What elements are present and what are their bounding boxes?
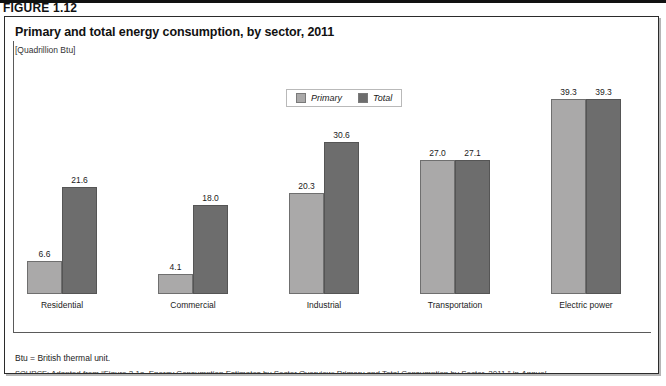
figure-panel: Primary and total energy consumption, by… xyxy=(4,16,659,374)
bar-wrap-residential-total: 21.6 xyxy=(62,187,97,294)
x-tick-label-transportation: Transportation xyxy=(428,300,483,310)
bar-wrap-transportation-primary: 27.0 xyxy=(420,160,455,294)
figure-number: FIGURE 1.12 xyxy=(3,1,77,15)
plot-area: 6.6 21.6 Residential 4.1 18.0 xyxy=(5,17,659,349)
bar-residential-primary[interactable] xyxy=(27,261,62,294)
bar-group-electric-power: 39.3 39.3 Electric power xyxy=(551,99,621,294)
bar-transportation-primary[interactable] xyxy=(420,160,455,294)
bar-commercial-total[interactable] xyxy=(193,205,228,294)
bar-group-industrial: 20.3 30.6 Industrial xyxy=(289,142,359,294)
abbreviation-note: Btu = British thermal unit. xyxy=(15,353,110,363)
bar-industrial-total[interactable] xyxy=(324,142,359,294)
bar-electric-power-primary[interactable] xyxy=(551,99,586,294)
bar-wrap-industrial-total: 30.6 xyxy=(324,142,359,294)
bar-wrap-commercial-total: 18.0 xyxy=(193,205,228,294)
bar-value-electric-power-primary: 39.3 xyxy=(560,87,577,97)
x-tick-label-residential: Residential xyxy=(41,300,83,310)
bar-transportation-total[interactable] xyxy=(455,160,490,294)
bar-value-residential-total: 21.6 xyxy=(71,175,88,185)
source-note: SOURCE: Adapted from “Figure 2.1a. Energ… xyxy=(15,369,655,374)
bar-value-commercial-total: 18.0 xyxy=(202,193,219,203)
bar-group-transportation: 27.0 27.1 Transportation xyxy=(420,160,490,294)
bar-value-transportation-total: 27.1 xyxy=(464,148,481,158)
bar-commercial-primary[interactable] xyxy=(158,274,193,294)
bar-group-commercial: 4.1 18.0 Commercial xyxy=(158,205,228,294)
bar-wrap-industrial-primary: 20.3 xyxy=(289,193,324,294)
x-tick-label-commercial: Commercial xyxy=(170,300,215,310)
bar-wrap-commercial-primary: 4.1 xyxy=(158,274,193,294)
x-tick-label-industrial: Industrial xyxy=(307,300,342,310)
x-tick-label-electric-power: Electric power xyxy=(559,300,612,310)
bar-value-transportation-primary: 27.0 xyxy=(429,148,446,158)
source-publication: Annual xyxy=(521,369,546,374)
bar-residential-total[interactable] xyxy=(62,187,97,294)
bar-wrap-electric-power-total: 39.3 xyxy=(586,99,621,294)
header-rule xyxy=(0,0,666,3)
source-label: SOURCE: xyxy=(15,369,49,374)
source-text: Adapted from “Figure 2.1a. Energy Consum… xyxy=(51,369,519,374)
bar-group-residential: 6.6 21.6 Residential xyxy=(27,187,97,294)
bar-industrial-primary[interactable] xyxy=(289,193,324,294)
bar-wrap-transportation-total: 27.1 xyxy=(455,160,490,294)
bar-wrap-residential-primary: 6.6 xyxy=(27,261,62,294)
bar-wrap-electric-power-primary: 39.3 xyxy=(551,99,586,294)
bar-electric-power-total[interactable] xyxy=(586,99,621,294)
bar-value-industrial-primary: 20.3 xyxy=(298,181,315,191)
figure-header: FIGURE 1.12 xyxy=(0,0,666,16)
bar-value-electric-power-total: 39.3 xyxy=(595,87,612,97)
figure-root: FIGURE 1.12 Primary and total energy con… xyxy=(0,0,666,386)
bar-value-industrial-total: 30.6 xyxy=(333,130,350,140)
bar-value-residential-primary: 6.6 xyxy=(39,249,51,259)
bar-value-commercial-primary: 4.1 xyxy=(170,262,182,272)
